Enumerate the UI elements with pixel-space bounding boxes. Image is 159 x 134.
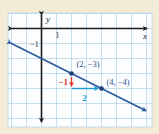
y-tick-label: −1 bbox=[30, 40, 39, 49]
x-axis-label: x bbox=[142, 31, 147, 41]
y-axis-label: y bbox=[45, 14, 50, 24]
rise-label: −1 bbox=[58, 77, 68, 87]
coordinate-plane: yx1−1−12(2, −3)(4, −4) bbox=[0, 0, 159, 134]
run-label: 2 bbox=[82, 93, 87, 103]
x-tick-label: 1 bbox=[56, 31, 60, 40]
point-label: (2, −3) bbox=[76, 59, 99, 69]
point-dot bbox=[69, 71, 74, 76]
plot-area bbox=[8, 13, 152, 127]
point-label: (4, −4) bbox=[106, 77, 129, 87]
point-dot bbox=[99, 86, 104, 91]
slope-figure: yx1−1−12(2, −3)(4, −4) bbox=[0, 0, 159, 134]
